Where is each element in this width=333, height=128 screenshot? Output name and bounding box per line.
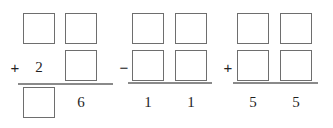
problem-3-col-2-sum-digit: 5: [280, 87, 312, 118]
problem-2-operator: −: [118, 60, 130, 75]
problem-1-col-1-addend-1-input[interactable]: [23, 13, 55, 44]
problem-3-col-1-addend-2-input[interactable]: [237, 50, 269, 81]
problem-2: − 1 1: [115, 0, 218, 128]
problem-2-col-2-difference-digit: 1: [175, 87, 207, 118]
problem-2-col-2-minuend-input[interactable]: [175, 13, 207, 44]
problem-3: + 5 5: [218, 0, 333, 128]
problem-1-col-2-addend-1-input[interactable]: [65, 13, 97, 44]
problem-1-col-1-sum-input[interactable]: [23, 87, 55, 118]
problem-3-col-2-addend-1-input[interactable]: [280, 13, 312, 44]
problem-2-col-1-difference-digit: 1: [132, 87, 164, 118]
problem-3-rule: [233, 82, 318, 84]
problem-3-col-1-addend-1-input[interactable]: [237, 13, 269, 44]
problem-2-col-1-minuend-input[interactable]: [132, 13, 164, 44]
problem-1-rule: [18, 83, 113, 85]
problem-2-rule: [128, 82, 212, 84]
problem-1-col-2-sum-digit: 6: [65, 87, 97, 118]
problem-1-col-2-addend-2-input[interactable]: [65, 50, 97, 81]
problem-1: + 2 6: [0, 0, 118, 128]
arithmetic-worksheet: + 2 6 − 1 1 + 5 5: [0, 0, 333, 128]
problem-1-operator: +: [9, 60, 21, 75]
problem-2-col-1-subtrahend-input[interactable]: [132, 50, 164, 81]
problem-3-col-2-addend-2-input[interactable]: [280, 50, 312, 81]
problem-1-col-1-addend-2-digit: 2: [23, 52, 55, 83]
problem-3-col-1-sum-digit: 5: [237, 87, 269, 118]
problem-2-col-2-subtrahend-input[interactable]: [175, 50, 207, 81]
problem-3-operator: +: [222, 60, 234, 75]
